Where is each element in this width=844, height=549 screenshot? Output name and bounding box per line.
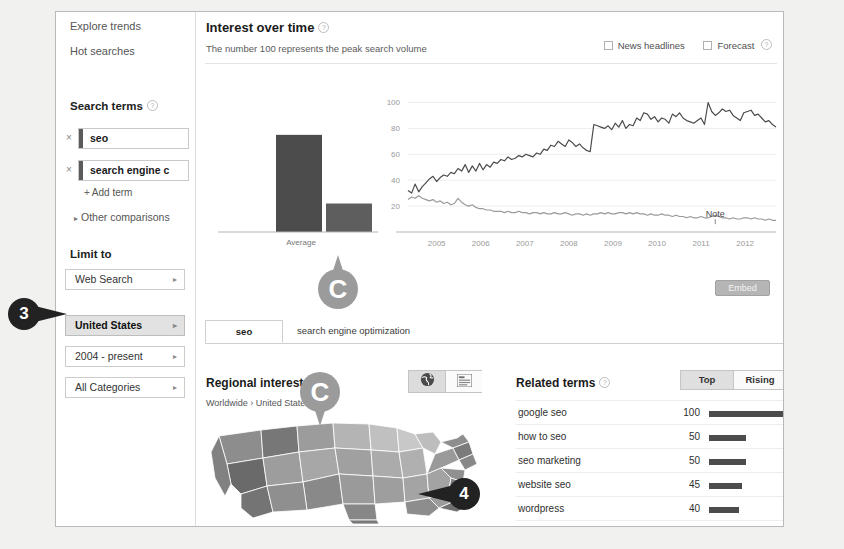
x-tick-label: 2009 (604, 239, 622, 248)
search-terms-heading-label: Search terms (70, 100, 143, 112)
rising-button[interactable]: Rising (734, 371, 784, 389)
map-region (371, 450, 403, 478)
screenshot-page: Explore trends Hot searches Search terms… (0, 0, 844, 549)
related-term-row[interactable]: google seo100 (516, 400, 784, 425)
map-region (373, 476, 405, 504)
average-axis-label: Average (286, 238, 316, 247)
other-comparisons-button[interactable]: ▸Other comparisons (74, 211, 170, 223)
news-headlines-label: News headlines (618, 40, 685, 51)
limit-button-date-range[interactable]: 2004 - present ▸ (65, 346, 185, 367)
x-tick-label: 2011 (692, 239, 710, 248)
map-region (297, 423, 335, 452)
news-headlines-checkbox[interactable]: News headlines (604, 40, 685, 51)
related-term-bar (709, 459, 746, 465)
limit-button-categories[interactable]: All Categories ▸ (65, 377, 185, 398)
google-trends-panel: Explore trends Hot searches Search terms… (55, 11, 784, 527)
callout-pin-c-average: C (318, 255, 358, 311)
regional-interest-title-label: Regional interest (206, 376, 303, 390)
sidebar-item-label: Explore trends (70, 20, 141, 32)
map-region (263, 452, 303, 486)
related-term-row[interactable]: wordpress40 (516, 496, 784, 521)
search-term-value: search engine c (90, 164, 169, 176)
interest-over-time-chart[interactable]: Average204060801002005200620072008200920… (198, 70, 784, 260)
tab-search-engine-optimization[interactable]: search engine optimization (293, 320, 414, 343)
limit-button-web-search[interactable]: Web Search ▸ (65, 269, 185, 290)
search-term-row: × seo (64, 128, 190, 150)
other-comparisons-label: Other comparisons (81, 211, 170, 223)
map-region (349, 520, 379, 524)
related-term-row[interactable]: wordpress seo40 (516, 520, 784, 527)
plus-icon: + (84, 187, 90, 198)
map-region (339, 474, 375, 504)
related-terms-panel: Related terms? Top Rising google seo100h… (516, 364, 784, 527)
y-tick-label: 80 (391, 124, 400, 133)
list-icon (457, 374, 472, 387)
main-content: Interest over time? The number 100 repre… (196, 12, 783, 526)
top-label: Top (699, 374, 716, 385)
regional-breadcrumb[interactable]: Worldwide › United States (206, 398, 310, 408)
x-tick-label: 2005 (428, 239, 446, 248)
limit-to-heading: Limit to (70, 248, 112, 260)
interest-over-time-title: Interest over time? (206, 20, 329, 35)
series-color-swatch (79, 129, 83, 148)
search-term-input[interactable]: search engine c (78, 160, 189, 181)
average-bar (326, 204, 372, 232)
map-region (335, 448, 373, 476)
related-term-row[interactable]: website seo45 (516, 472, 784, 497)
related-term-value: 100 (676, 407, 700, 418)
help-icon[interactable]: ? (318, 22, 329, 33)
related-term-row[interactable]: how to seo50 (516, 424, 784, 449)
callout-label: 4 (459, 484, 468, 503)
related-terms-toggle: Top Rising (680, 370, 784, 390)
map-region (267, 482, 307, 512)
callout-4: 4 (448, 478, 480, 510)
related-term-value: 50 (676, 431, 700, 442)
related-term-name: how to seo (518, 431, 566, 442)
forecast-checkbox[interactable]: Forecast (703, 40, 754, 51)
embed-label: Embed (728, 283, 757, 293)
top-button[interactable]: Top (681, 371, 734, 389)
tab-label: seo (236, 326, 252, 337)
help-icon[interactable]: ? (599, 377, 610, 388)
callout-label: 3 (19, 304, 28, 323)
limit-button-united-states[interactable]: United States ▸ (65, 315, 185, 336)
related-term-bar (709, 435, 746, 441)
help-icon[interactable]: ? (761, 39, 772, 50)
sidebar-item-explore-trends[interactable]: Explore trends (56, 20, 141, 33)
sidebar: Explore trends Hot searches Search terms… (56, 12, 196, 526)
help-icon[interactable]: ? (147, 100, 158, 111)
chevron-right-icon: ▸ (74, 214, 78, 223)
globe-view-button[interactable] (409, 371, 446, 392)
callout-pin-c-regional: C (300, 370, 340, 426)
series-tabs: seo search engine optimization (205, 320, 784, 344)
average-bar (276, 135, 322, 232)
regional-interest-map[interactable] (201, 412, 486, 527)
rising-label: Rising (745, 374, 774, 385)
y-tick-label: 40 (391, 176, 400, 185)
remove-term-button[interactable]: × (64, 132, 74, 143)
sidebar-item-hot-searches[interactable]: Hot searches (56, 45, 135, 58)
list-view-button[interactable] (446, 371, 482, 392)
globe-icon (420, 372, 435, 387)
limit-button-label: All Categories (75, 381, 140, 393)
x-tick-label: 2008 (560, 239, 578, 248)
embed-button[interactable]: Embed (715, 280, 770, 296)
chart-note-annotation[interactable]: Note (706, 209, 725, 219)
chart-series-line (408, 103, 776, 194)
search-term-input[interactable]: seo (78, 128, 189, 149)
related-term-bar (709, 507, 739, 513)
search-terms-heading: Search terms? (70, 100, 158, 112)
x-tick-label: 2006 (472, 239, 490, 248)
callout-pointer (35, 306, 67, 322)
related-term-row[interactable]: seo marketing50 (516, 448, 784, 473)
map-region (369, 424, 399, 452)
add-term-button[interactable]: +Add term (84, 187, 132, 198)
callout-pointer (418, 486, 450, 502)
remove-term-button[interactable]: × (64, 164, 74, 175)
chevron-right-icon: ▸ (173, 316, 177, 335)
map-region (343, 504, 377, 520)
related-term-bar (709, 483, 742, 489)
related-term-value: 40 (676, 503, 700, 514)
related-term-value: 45 (676, 479, 700, 490)
tab-seo[interactable]: seo (205, 320, 283, 343)
